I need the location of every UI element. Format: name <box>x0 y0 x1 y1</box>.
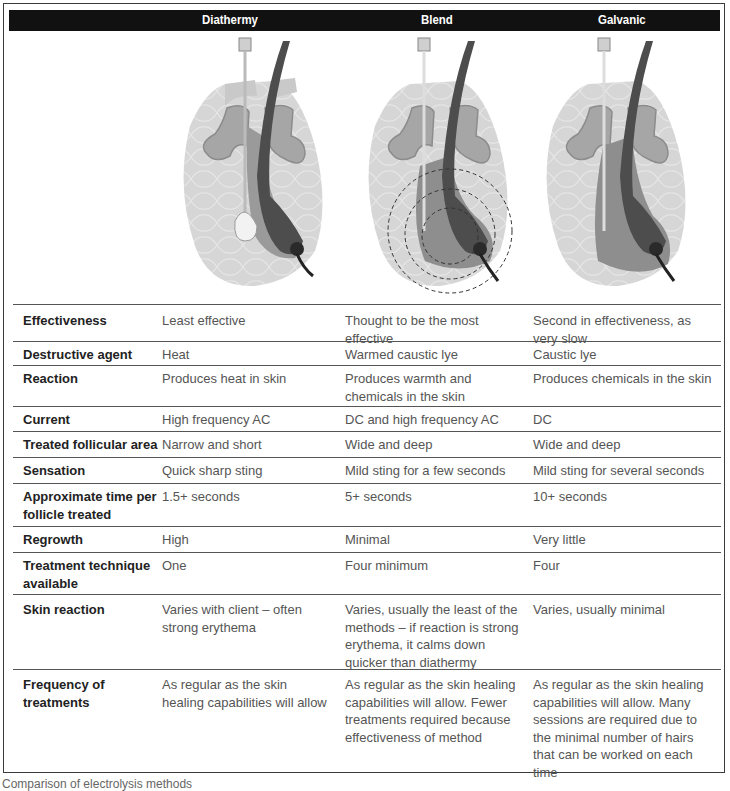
table-row: Frequency of treatments As regular as th… <box>13 669 721 763</box>
diathermy-value: High frequency AC <box>162 411 332 429</box>
galvanic-value: Varies, usually minimal <box>533 601 718 619</box>
header-diathermy: Diathermy <box>202 12 258 27</box>
diathermy-value: Produces heat in skin <box>162 370 332 388</box>
row-label: Effectiveness <box>23 312 168 330</box>
table-row: Current High frequency AC DC and high fr… <box>13 406 721 431</box>
galvanic-value: Produces chemicals in the skin <box>533 370 718 388</box>
hair-follicle-blend-illustration <box>350 36 550 301</box>
row-label: Destructive agent <box>23 346 168 364</box>
blend-value: DC and high frequency AC <box>345 411 525 429</box>
hair-follicle-diathermy-illustration <box>165 36 365 301</box>
table-row: Treatment technique available One Four m… <box>13 552 721 594</box>
blend-value: As regular as the skin healing capabilit… <box>345 676 525 746</box>
blend-value: Varies, usually the least of the methods… <box>345 601 525 671</box>
diathermy-value: Narrow and short <box>162 436 332 454</box>
table-row: Destructive agent Heat Warmed caustic ly… <box>13 341 721 365</box>
row-label: Reaction <box>23 370 168 388</box>
galvanic-value: Mild sting for several seconds <box>533 462 718 480</box>
figure-caption: Comparison of electrolysis methods <box>2 777 192 791</box>
galvanic-value: Very little <box>533 531 718 549</box>
row-label: Frequency of treatments <box>23 676 168 711</box>
diathermy-value: Quick sharp sting <box>162 462 332 480</box>
hair-follicle-galvanic-illustration <box>528 36 728 301</box>
galvanic-value: Wide and deep <box>533 436 718 454</box>
blend-value: Wide and deep <box>345 436 525 454</box>
blend-value: Produces warmth and chemicals in the ski… <box>345 370 525 405</box>
table-row: Effectiveness Least effective Thought to… <box>13 304 721 341</box>
blend-value: Warmed caustic lye <box>345 346 525 364</box>
galvanic-value: DC <box>533 411 718 429</box>
row-label: Regrowth <box>23 531 168 549</box>
galvanic-value: 10+ seconds <box>533 488 718 506</box>
blend-value: Four minimum <box>345 557 525 575</box>
diathermy-value: Least effective <box>162 312 332 330</box>
table-row: Skin reaction Varies with client – often… <box>13 594 721 669</box>
blend-value: Mild sting for a few seconds <box>345 462 525 480</box>
diathermy-value: Heat <box>162 346 332 364</box>
header-blend: Blend <box>421 12 453 27</box>
table-row: Treated follicular area Narrow and short… <box>13 431 721 457</box>
diathermy-value: One <box>162 557 332 575</box>
galvanic-value: Four <box>533 557 718 575</box>
row-label: Current <box>23 411 168 429</box>
galvanic-value: As regular as the skin healing capabilit… <box>533 676 718 781</box>
table-row: Regrowth High Minimal Very little <box>13 526 721 552</box>
table-header: Diathermy Blend Galvanic <box>9 10 720 31</box>
diathermy-value: Varies with client – often strong erythe… <box>162 601 332 636</box>
row-label: Treated follicular area <box>23 436 168 454</box>
diathermy-value: High <box>162 531 332 549</box>
row-label: Approximate time per follicle treated <box>23 488 168 523</box>
table-row: Reaction Produces heat in skin Produces … <box>13 365 721 406</box>
row-label: Sensation <box>23 462 168 480</box>
diathermy-value: 1.5+ seconds <box>162 488 332 506</box>
comparison-table: Effectiveness Least effective Thought to… <box>13 304 721 763</box>
row-label: Skin reaction <box>23 601 168 619</box>
header-galvanic: Galvanic <box>598 12 646 27</box>
blend-value: 5+ seconds <box>345 488 525 506</box>
blend-value: Minimal <box>345 531 525 549</box>
galvanic-value: Caustic lye <box>533 346 718 364</box>
table-row: Approximate time per follicle treated 1.… <box>13 483 721 526</box>
table-row: Sensation Quick sharp sting Mild sting f… <box>13 457 721 483</box>
diathermy-value: As regular as the skin healing capabilit… <box>162 676 332 711</box>
row-label: Treatment technique available <box>23 557 168 592</box>
